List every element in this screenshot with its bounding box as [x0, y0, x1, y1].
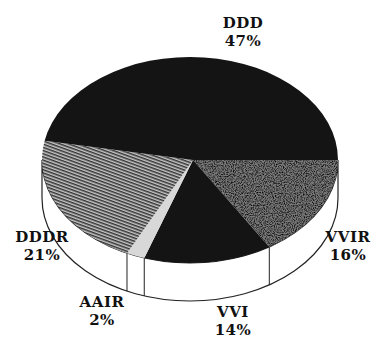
label-aair-name: AAIR	[72, 293, 132, 311]
pie-top-face	[42, 57, 338, 263]
label-ddd-pct: 47%	[208, 32, 278, 50]
label-dddr: DDDR 21%	[12, 228, 72, 264]
label-vvi-pct: 14%	[208, 321, 258, 339]
label-vvir-pct: 16%	[318, 246, 378, 264]
label-aair: AAIR 2%	[72, 293, 132, 329]
label-dddr-name: DDDR	[12, 228, 72, 246]
label-ddd: DDD 47%	[208, 14, 278, 50]
label-ddd-name: DDD	[208, 14, 278, 32]
label-vvi-name: VVI	[208, 303, 258, 321]
label-aair-pct: 2%	[72, 311, 132, 329]
label-dddr-pct: 21%	[12, 246, 72, 264]
label-vvi: VVI 14%	[208, 303, 258, 339]
pie-chart	[0, 0, 381, 347]
slice-ddd	[45, 57, 338, 160]
label-vvir: VVIR 16%	[318, 228, 378, 264]
label-vvir-name: VVIR	[318, 228, 378, 246]
